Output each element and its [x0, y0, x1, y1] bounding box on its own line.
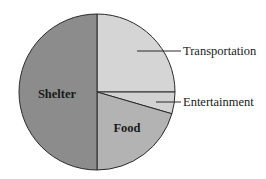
label-shelter: Shelter [38, 87, 77, 101]
label-food: Food [113, 121, 140, 135]
pie-chart: Shelter Food Transportation Entertainmen… [0, 0, 266, 179]
label-entertainment: Entertainment [183, 95, 254, 109]
slice-transportation [97, 14, 175, 92]
label-transportation: Transportation [183, 44, 257, 58]
